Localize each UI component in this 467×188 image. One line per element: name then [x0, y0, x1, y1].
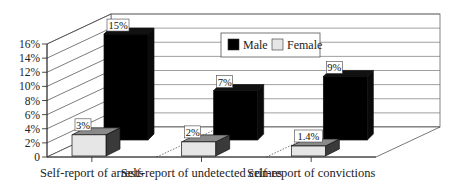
y-tick-label: 2%: [25, 137, 41, 149]
y-tick-label: 6%: [25, 109, 41, 121]
legend-swatch-female: [272, 39, 283, 50]
legend-swatch-male: [228, 39, 239, 50]
bar-front: [291, 146, 325, 156]
x-axis: Self-report of arrestsSelf-report of und…: [40, 157, 376, 180]
data-label: 15%: [108, 20, 128, 31]
bar-front: [214, 91, 258, 140]
data-label: 3%: [76, 120, 90, 131]
y-tick-label: 4%: [25, 123, 41, 135]
y-tick-label: 14%: [19, 52, 41, 64]
bar-front: [104, 34, 148, 140]
bar-front: [182, 142, 216, 156]
legend: Male Female: [221, 33, 322, 57]
x-tick-label: Self-report of convictions: [247, 166, 376, 180]
bar-male: 7%: [214, 76, 264, 140]
bar-male: 15%: [104, 19, 154, 140]
bar-front: [72, 135, 106, 156]
data-label: 2%: [186, 127, 200, 138]
data-label: 7%: [218, 77, 232, 88]
bar-side: [148, 28, 154, 140]
y-tick-label: 0: [34, 151, 40, 163]
bar-front: [323, 76, 367, 140]
data-label: 1.4%: [297, 131, 319, 142]
y-tick-label: 8%: [25, 95, 41, 107]
y-tick-label: 10%: [19, 80, 41, 92]
chart-container: 02%4%6%8%10%12%14%16% 15%3%7%2%9%1.4% Se…: [0, 0, 467, 188]
legend-label-female: Female: [287, 38, 322, 52]
bar-male: 9%: [323, 61, 373, 140]
y-tick-label: 12%: [19, 66, 41, 78]
bar-side: [258, 85, 264, 140]
legend-label-male: Male: [243, 38, 268, 52]
y-axis: 02%4%6%8%10%12%14%16%: [19, 38, 47, 163]
y-tick-label: 16%: [19, 38, 41, 50]
bar-chart-3d: 02%4%6%8%10%12%14%16% 15%3%7%2%9%1.4% Se…: [0, 0, 467, 188]
data-label: 9%: [327, 62, 341, 73]
bar-side: [367, 70, 373, 140]
